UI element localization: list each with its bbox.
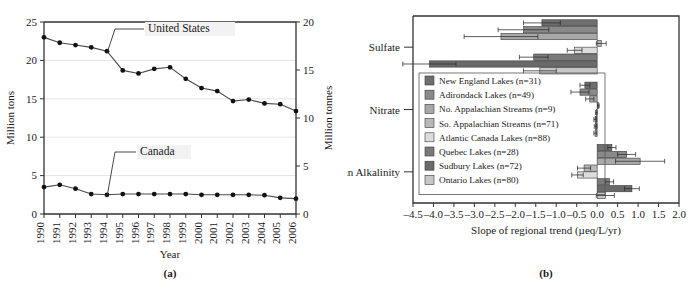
svg-text:2002: 2002 — [223, 222, 235, 244]
svg-text:2003: 2003 — [239, 222, 251, 245]
svg-text:1998: 1998 — [160, 222, 172, 245]
panel-b-bar-chart: –4.5–4.0–3.5–3.0–2.5–2.0–1.5–1.0–0.50.00… — [347, 0, 694, 284]
tick-labels: –4.5–4.0–3.5–3.0–2.5–2.0–1.5–1.0–0.50.00… — [402, 208, 686, 220]
svg-text:1994: 1994 — [97, 222, 109, 245]
svg-text:1993: 1993 — [81, 222, 93, 245]
svg-text:2004: 2004 — [255, 222, 267, 245]
svg-text:New England Lakes (n=31): New England Lakes (n=31) — [439, 76, 541, 86]
svg-text:So. Appalachian Streams (n=71): So. Appalachian Streams (n=71) — [439, 119, 559, 129]
svg-text:20: 20 — [26, 54, 38, 66]
panel-a-caption: (a) — [164, 267, 177, 280]
axes — [40, 22, 300, 218]
svg-text:1990: 1990 — [34, 222, 46, 245]
panel-a-line-chart: 0510152025051015201990199119921993199419… — [0, 0, 347, 284]
panel-b-caption: (b) — [539, 267, 553, 280]
svg-text:–3.0: –3.0 — [464, 208, 485, 220]
svg-text:5: 5 — [32, 169, 38, 181]
svg-text:2000: 2000 — [192, 222, 204, 245]
svg-text:2001: 2001 — [207, 222, 219, 244]
y-axis-title-left: Million tons — [4, 91, 16, 145]
svg-text:–0.5: –0.5 — [566, 208, 587, 220]
series-callouts: United StatesCanada — [107, 22, 235, 197]
svg-text:–2.0: –2.0 — [505, 208, 526, 220]
svg-text:0: 0 — [303, 208, 309, 220]
panel-a-svg: 0510152025051015201990199119921993199419… — [0, 0, 347, 284]
svg-text:Adirondack Lakes (n=49): Adirondack Lakes (n=49) — [439, 90, 534, 100]
svg-text:0: 0 — [32, 208, 38, 220]
tick-labels: 0510152025051015201990199119921993199419… — [26, 16, 315, 244]
svg-text:5: 5 — [303, 160, 309, 172]
svg-text:–4.5: –4.5 — [402, 208, 423, 220]
svg-text:No. Appalachian Streams (n=9): No. Appalachian Streams (n=9) — [439, 104, 555, 114]
svg-text:United States: United States — [148, 22, 210, 34]
svg-text:Canada: Canada — [140, 145, 174, 157]
svg-text:1997: 1997 — [144, 222, 156, 245]
svg-text:–2.5: –2.5 — [484, 208, 505, 220]
svg-text:1999: 1999 — [176, 222, 188, 245]
svg-text:–4.0: –4.0 — [423, 208, 444, 220]
svg-text:10: 10 — [26, 131, 38, 143]
svg-text:15: 15 — [303, 64, 315, 76]
legend: New England Lakes (n=31)Adirondack Lakes… — [419, 73, 605, 195]
svg-text:Nitrate: Nitrate — [369, 104, 400, 116]
svg-text:0.0: 0.0 — [590, 208, 604, 220]
svg-text:–1.0: –1.0 — [546, 208, 567, 220]
svg-text:15: 15 — [26, 93, 38, 105]
svg-text:1.5: 1.5 — [652, 208, 666, 220]
svg-text:2006: 2006 — [286, 222, 298, 245]
svg-text:Atlantic Canada Lakes (n=88): Atlantic Canada Lakes (n=88) — [439, 133, 550, 143]
svg-text:1991: 1991 — [50, 222, 62, 244]
svg-text:2.0: 2.0 — [672, 208, 686, 220]
svg-text:1.0: 1.0 — [631, 208, 645, 220]
svg-text:0.5: 0.5 — [611, 208, 625, 220]
svg-text:1996: 1996 — [129, 222, 141, 245]
svg-text:Gran Alkalinity: Gran Alkalinity — [347, 166, 400, 178]
x-axis-title: Slope of regional trend (µeq/L/yr) — [471, 224, 621, 237]
x-axis-title: Year — [160, 248, 181, 260]
svg-text:2005: 2005 — [270, 222, 282, 245]
svg-text:20: 20 — [303, 16, 315, 28]
svg-text:10: 10 — [303, 112, 315, 124]
svg-text:–3.5: –3.5 — [443, 208, 464, 220]
svg-text:Ontario Lakes (n=80): Ontario Lakes (n=80) — [439, 175, 519, 185]
svg-text:Quebec Lakes (n=28): Quebec Lakes (n=28) — [439, 147, 519, 157]
panel-b-svg: –4.5–4.0–3.5–3.0–2.5–2.0–1.5–1.0–0.50.00… — [347, 0, 694, 284]
svg-text:Sudbury Lakes (n=72): Sudbury Lakes (n=72) — [439, 161, 522, 171]
y-axis-title-right: Million tonnes — [322, 86, 334, 150]
svg-text:Sulfate: Sulfate — [369, 41, 400, 53]
svg-text:–1.5: –1.5 — [525, 208, 546, 220]
svg-text:1995: 1995 — [113, 222, 125, 245]
svg-text:25: 25 — [26, 16, 38, 28]
svg-text:1992: 1992 — [66, 222, 78, 244]
data-series — [42, 35, 299, 201]
